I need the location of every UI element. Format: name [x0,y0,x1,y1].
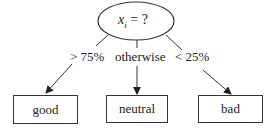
edge-right-lower [203,70,231,94]
edge-left-lower [46,64,72,93]
edge-left-upper [96,35,108,46]
decision-tree-diagram: xi = ? > 75% otherwise < 25% good neutra… [0,0,279,130]
leaf-label-good: good [33,102,59,118]
edge-right-upper [166,35,182,50]
leaf-node-bad: bad [198,95,263,123]
leaf-label-bad: bad [221,101,240,117]
leaf-node-neutral: neutral [106,95,168,123]
leaf-label-neutral: neutral [119,101,155,117]
root-question-suffix: = ? [127,12,148,27]
edge-label-high: > 75% [70,50,104,63]
root-question: xi = ? [118,13,148,30]
edge-label-low: < 25% [175,50,209,63]
edge-label-otherwise: otherwise [115,50,166,63]
leaf-node-good: good [13,95,78,124]
